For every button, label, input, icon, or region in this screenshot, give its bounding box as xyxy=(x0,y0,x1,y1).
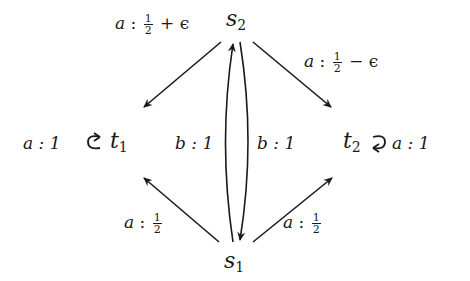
node-s1: s1 xyxy=(224,250,244,274)
node-s2-name: s xyxy=(226,6,237,31)
node-t2: t2 xyxy=(343,130,361,154)
label-s2-s1: b : 1 xyxy=(257,135,295,152)
fraction: 12 xyxy=(333,51,342,74)
node-t1: t1 xyxy=(110,130,128,154)
node-t2-name: t xyxy=(343,128,352,153)
fraction: 12 xyxy=(153,212,162,235)
edge-s1-s2 xyxy=(226,44,234,242)
label-s1-s2: b : 1 xyxy=(175,135,213,152)
node-s1-sub: 1 xyxy=(235,259,244,275)
label-t2-loop: a : 1 xyxy=(392,135,430,152)
label-text: b : 1 xyxy=(175,133,213,153)
fraction-den: 2 xyxy=(144,25,153,36)
node-t2-sub: 2 xyxy=(352,139,361,155)
label-action: a xyxy=(283,212,293,232)
label-s2-t1: a : 12 + ϵ xyxy=(115,13,189,36)
node-s2-sub: 2 xyxy=(237,17,246,33)
node-s2: s2 xyxy=(226,8,246,32)
fraction: 12 xyxy=(144,13,153,36)
label-s1-t1: a : 12 xyxy=(124,212,164,235)
label-t1-loop: a : 1 xyxy=(23,135,61,152)
label-sep: : xyxy=(293,212,310,232)
label-action: a xyxy=(115,13,125,33)
label-suffix: + ϵ xyxy=(155,13,190,33)
fraction-den: 2 xyxy=(333,63,342,74)
fraction: 12 xyxy=(312,212,321,235)
fraction-den: 2 xyxy=(153,224,162,235)
label-action: a xyxy=(304,51,314,71)
node-s1-name: s xyxy=(224,248,235,273)
node-t1-sub: 1 xyxy=(119,139,128,155)
fraction-den: 2 xyxy=(312,224,321,235)
node-t1-name: t xyxy=(110,128,119,153)
label-s2-t2: a : 12 − ϵ xyxy=(304,51,378,74)
label-sep: : xyxy=(125,13,142,33)
label-suffix: − ϵ xyxy=(344,51,379,71)
label-sep: : xyxy=(314,51,331,71)
label-s1-t2: a : 12 xyxy=(283,212,323,235)
edge-s2-s1 xyxy=(240,42,248,240)
label-sep: : xyxy=(134,212,151,232)
edge-s2-t1 xyxy=(144,42,221,107)
label-text: a : 1 xyxy=(392,133,430,153)
label-text: a : 1 xyxy=(23,133,61,153)
label-text: b : 1 xyxy=(257,133,295,153)
label-action: a xyxy=(124,212,134,232)
